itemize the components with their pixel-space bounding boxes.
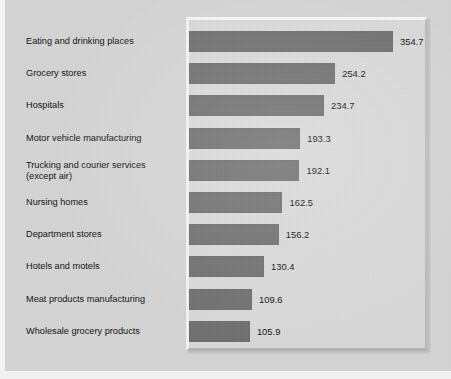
- bar-value-label: 354.7: [400, 36, 423, 47]
- bar-category-label: Department stores: [26, 229, 186, 240]
- bar-rows: Eating and drinking places354.7Grocery s…: [5, 0, 446, 371]
- bar-value-label: 192.1: [306, 165, 329, 176]
- bar-value-label: 156.2: [286, 229, 309, 240]
- bar: [189, 95, 324, 116]
- bar-chart: Eating and drinking places354.7Grocery s…: [5, 0, 446, 371]
- bar-category-label: Motor vehicle manufacturing: [26, 133, 186, 144]
- bar-category-label: Wholesale grocery products: [26, 326, 186, 337]
- bar-category-label: Nursing homes: [26, 197, 186, 208]
- bar: [189, 63, 335, 84]
- bar: [189, 31, 393, 52]
- figure-root: Eating and drinking places354.7Grocery s…: [0, 0, 451, 379]
- bar: [189, 192, 282, 213]
- bar-category-label: Trucking and courier services (except ai…: [26, 160, 186, 182]
- bar-category-label: Eating and drinking places: [26, 36, 186, 47]
- bar-category-label: Hospitals: [26, 100, 186, 111]
- bar-value-label: 234.7: [331, 100, 354, 111]
- bar-value-label: 162.5: [289, 197, 312, 208]
- bar-category-label: Grocery stores: [26, 68, 186, 79]
- bar: [189, 224, 279, 245]
- bar-category-label: Meat products manufacturing: [26, 294, 186, 305]
- bar: [189, 321, 250, 342]
- bar-value-label: 109.6: [259, 294, 282, 305]
- bar: [189, 128, 300, 149]
- bar: [189, 289, 252, 310]
- bar-value-label: 130.4: [271, 261, 294, 272]
- bar-category-label: Hotels and motels: [26, 261, 186, 272]
- bar: [189, 160, 299, 181]
- bar: [189, 256, 264, 277]
- bar-value-label: 193.3: [307, 133, 330, 144]
- bar-value-label: 105.9: [257, 326, 280, 337]
- bar-value-label: 254.2: [342, 68, 365, 79]
